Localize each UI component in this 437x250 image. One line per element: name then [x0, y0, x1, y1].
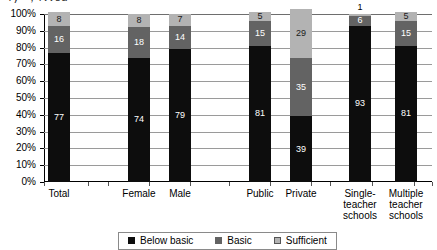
- bar-female[interactable]: 81874: [128, 14, 150, 182]
- x-axis-tick: [44, 182, 45, 186]
- segment-sufficient[interactable]: 5: [395, 12, 417, 20]
- legend-item-below-basic[interactable]: Below basic: [128, 235, 193, 246]
- y-axis-label: 100%: [10, 9, 36, 19]
- clipped-title-fragment: ʔγ—, ʕννδα: [8, 0, 68, 3]
- plot-area: [44, 14, 432, 182]
- gridline: [44, 48, 432, 49]
- value-label: 81: [401, 109, 411, 118]
- segment-below-basic[interactable]: 79: [169, 49, 191, 182]
- bar-public[interactable]: 51581: [249, 14, 271, 182]
- gridline: [44, 31, 432, 32]
- gridline: [44, 115, 432, 116]
- bar-stack: 71479: [169, 14, 191, 182]
- value-label: 81: [255, 109, 265, 118]
- x-axis-tick: [270, 182, 271, 186]
- chart-legend: Below basicBasicSufficient: [118, 232, 337, 250]
- legend-label: Basic: [227, 235, 251, 246]
- segment-basic[interactable]: 15: [249, 21, 271, 46]
- y-axis-label: 70%: [16, 59, 36, 69]
- gridline: [44, 132, 432, 133]
- bar-stack: 81874: [128, 14, 150, 182]
- bar-stack: 81677: [48, 12, 70, 182]
- y-axis-label: 90%: [16, 26, 36, 36]
- x-axis-tick: [149, 182, 150, 186]
- bar-multiple-teacher-schools[interactable]: 51581: [395, 14, 417, 182]
- segment-sufficient[interactable]: 7: [169, 14, 191, 26]
- segment-sufficient[interactable]: 5: [249, 12, 271, 20]
- bar-stack: 293539: [290, 9, 312, 182]
- bar-male[interactable]: 71479: [169, 14, 191, 182]
- bar-stack: 51581: [395, 12, 417, 182]
- legend-swatch-basic: [215, 237, 222, 244]
- x-axis-tick: [432, 182, 433, 186]
- category-label-male: Male: [153, 188, 207, 199]
- gridline: [44, 148, 432, 149]
- value-label: 16: [54, 35, 64, 44]
- value-label: 15: [255, 29, 265, 38]
- y-axis-label: 30%: [16, 127, 36, 137]
- value-label: 5: [403, 12, 408, 21]
- segment-below-basic[interactable]: 93: [349, 26, 371, 182]
- y-axis-label: 10%: [16, 160, 36, 170]
- stacked-bar-chart: ʔγ—, ʕννδα 100%90%80%70%60%50%40%30%20%1…: [0, 0, 437, 250]
- category-label-private: Private: [274, 188, 328, 199]
- value-label: 1: [357, 3, 362, 12]
- legend-item-basic[interactable]: Basic: [215, 235, 251, 246]
- segment-sufficient[interactable]: 8: [128, 14, 150, 27]
- segment-below-basic[interactable]: 81: [249, 46, 271, 182]
- value-label: 93: [355, 99, 365, 108]
- y-axis: 100%90%80%70%60%50%40%30%20%10%0%: [0, 14, 40, 182]
- gridline: [44, 64, 432, 65]
- segment-sufficient[interactable]: 8: [48, 12, 70, 25]
- segment-sufficient[interactable]: 29: [290, 9, 312, 58]
- segment-basic[interactable]: 18: [128, 27, 150, 57]
- x-axis-tick: [190, 182, 191, 186]
- y-axis-label: 40%: [16, 110, 36, 120]
- value-label: 14: [175, 33, 185, 42]
- y-axis-label: 20%: [16, 143, 36, 153]
- x-axis-tick: [311, 182, 312, 186]
- gridline: [44, 14, 432, 15]
- value-label: 74: [134, 115, 144, 124]
- legend-label: Below basic: [140, 235, 193, 246]
- bar-total[interactable]: 81677: [48, 14, 70, 182]
- segment-below-basic[interactable]: 77: [48, 53, 70, 182]
- bar-single-teacher-schools[interactable]: 1693: [349, 14, 371, 182]
- bar-stack: 51581: [249, 12, 271, 182]
- category-label-total: Total: [32, 188, 86, 199]
- segment-basic[interactable]: 6: [349, 16, 371, 26]
- segment-basic[interactable]: 35: [290, 58, 312, 117]
- x-axis-tick: [229, 182, 230, 186]
- value-label: 18: [134, 38, 144, 47]
- value-label: 79: [175, 111, 185, 120]
- segment-basic[interactable]: 14: [169, 26, 191, 50]
- segment-basic[interactable]: 16: [48, 26, 70, 53]
- segment-below-basic[interactable]: 74: [128, 58, 150, 182]
- bar-private[interactable]: 293539: [290, 14, 312, 182]
- value-label: 8: [136, 16, 141, 25]
- category-label-multiple-teacher-schools: Multiple teacher schools: [379, 188, 433, 221]
- value-label: 6: [357, 16, 362, 25]
- x-axis-tick: [330, 182, 331, 186]
- value-label: 35: [296, 83, 306, 92]
- y-axis-label: 80%: [16, 43, 36, 53]
- legend-swatch-below-basic: [128, 237, 135, 244]
- y-axis-label: 50%: [16, 93, 36, 103]
- value-label: 5: [257, 12, 262, 21]
- segment-below-basic[interactable]: 81: [395, 46, 417, 182]
- x-axis-tick: [88, 182, 89, 186]
- segment-basic[interactable]: 15: [395, 21, 417, 46]
- legend-item-sufficient[interactable]: Sufficient: [274, 235, 327, 246]
- y-axis-label: 0%: [22, 177, 36, 187]
- value-label: 15: [401, 29, 411, 38]
- legend-swatch-sufficient: [274, 237, 281, 244]
- value-label: 7: [177, 15, 182, 24]
- segment-below-basic[interactable]: 39: [290, 116, 312, 182]
- x-axis-tick: [108, 182, 109, 186]
- gridline: [44, 81, 432, 82]
- x-axis-tick: [372, 182, 373, 186]
- legend-label: Sufficient: [286, 235, 327, 246]
- value-label: 29: [296, 29, 306, 38]
- bar-stack: 1693: [349, 14, 371, 182]
- x-axis-tick: [414, 182, 415, 186]
